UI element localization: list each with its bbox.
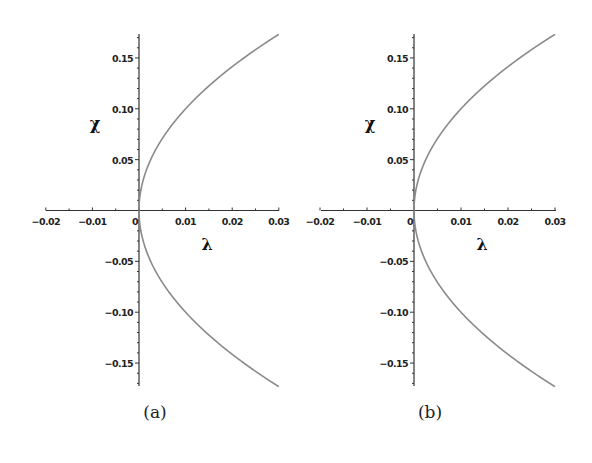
y-axis-label: χ (90, 114, 101, 133)
y-tick-label: 0.10 (112, 104, 134, 115)
x-tick-label: −0.02 (32, 216, 60, 227)
y-tick-label: 0.05 (387, 155, 408, 166)
y-tick-label: −0.10 (105, 307, 134, 318)
curve-upper-branch (139, 34, 279, 210)
x-tick-label: −0.01 (353, 216, 381, 227)
chart-b-plot: −0.02−0.0100.010.020.030.150.100.05−0.05… (296, 0, 592, 463)
y-tick-label: −0.15 (105, 358, 133, 369)
y-tick-label: 0.10 (387, 104, 409, 115)
curve-upper-branch (414, 34, 555, 210)
x-axis-label: λ (201, 235, 212, 254)
x-tick-label: 0.01 (175, 216, 196, 227)
x-tick-label: 0.03 (544, 216, 565, 227)
y-axis-label: χ (365, 114, 376, 133)
x-tick-label: 0.02 (222, 216, 243, 227)
x-axis-label: λ (476, 235, 487, 254)
y-tick-label: −0.05 (105, 256, 133, 267)
caption-a: (a) (125, 402, 185, 422)
x-tick-label: 0.01 (450, 216, 471, 227)
chart-panel-a: −0.02−0.0100.010.020.030.150.100.05−0.05… (0, 0, 296, 463)
x-tick-label: −0.02 (306, 216, 334, 227)
chart-a-plot: −0.02−0.0100.010.020.030.150.100.05−0.05… (0, 0, 296, 463)
y-tick-label: 0.15 (387, 53, 408, 64)
y-tick-label: 0.15 (112, 53, 133, 64)
y-tick-label: −0.15 (380, 358, 408, 369)
caption-b: (b) (400, 402, 460, 422)
x-tick-label: −0.01 (78, 216, 106, 227)
x-tick-label: 0.03 (268, 216, 289, 227)
x-tick-label: 0.02 (497, 216, 518, 227)
chart-panel-b: −0.02−0.0100.010.020.030.150.100.05−0.05… (296, 0, 592, 463)
y-tick-label: 0.05 (112, 155, 133, 166)
y-tick-label: −0.05 (380, 256, 408, 267)
y-tick-label: −0.10 (380, 307, 409, 318)
